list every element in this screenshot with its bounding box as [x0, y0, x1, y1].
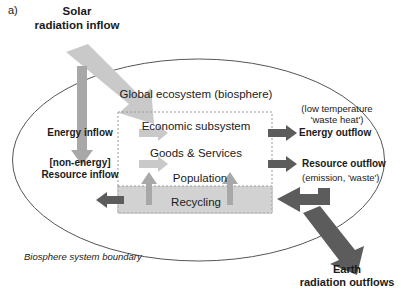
waste-heat-label-line1: (low temperature: [301, 103, 372, 114]
biosphere-boundary-label: Biosphere system boundary: [24, 251, 142, 262]
waste-heat-label-line2: 'waste heat'): [301, 114, 372, 125]
recycling-return-arrow: [277, 187, 330, 212]
resource-inflow-label-line2: Resource inflow: [41, 169, 118, 181]
goods-and-services-label: Goods & Services: [150, 147, 242, 161]
solar-radiation-label: Solar radiation inflow: [35, 5, 120, 32]
earth-radiation-outflows-label: Earth radiation outflows: [300, 263, 395, 289]
energy-inflow-label: Energy inflow: [47, 127, 113, 139]
solar-radiation-label-line2: radiation inflow: [35, 19, 120, 33]
earth-radiation-label-line2: radiation outflows: [300, 276, 395, 289]
energy-outflow-label: Energy outflow: [299, 127, 371, 139]
resource-inflow-label-line1: [non-energy]: [41, 157, 118, 169]
diagram-figure: a) Solar radiation inflow Global ecosyst…: [0, 0, 403, 297]
panel-label: a): [8, 4, 18, 17]
waste-heat-label: (low temperature 'waste heat'): [301, 103, 372, 125]
resource-outflow-label: Resource outflow: [302, 158, 386, 170]
recycling-label: Recycling: [171, 196, 221, 210]
emission-waste-label: (emission, 'waste'): [302, 172, 380, 183]
resource-inflow-label: [non-energy] Resource inflow: [41, 157, 118, 181]
population-label: Population: [173, 172, 227, 186]
solar-radiation-label-line1: Solar: [35, 5, 120, 19]
earth-radiation-label-line1: Earth: [300, 263, 395, 276]
solar-vertical-arrow: [71, 66, 93, 165]
global-ecosystem-label: Global ecosystem (biosphere): [120, 88, 273, 102]
economic-subsystem-label: Economic subsystem: [142, 120, 251, 134]
